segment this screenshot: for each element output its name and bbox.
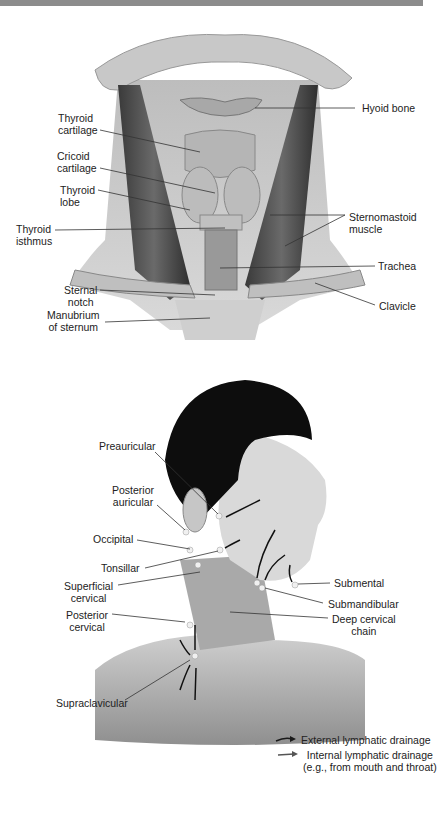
black-arrow-icon [275,734,297,744]
label-sternal-notch: Sternal notch [64,284,97,308]
label-tonsillar: Tonsillar [101,562,140,574]
label-posterior-auricular: Posterior auricular [112,484,154,508]
legend-internal: Internal lymphatic drainage (e.g., from … [277,749,437,773]
label-thyroid-lobe: Thyroid lobe [60,184,95,208]
legend-internal-label: Internal lymphatic drainage (e.g., from … [303,749,437,773]
gray-arrow-icon [277,749,299,759]
label-thyroid-cartilage: Thyroid cartilage [58,112,98,136]
label-clavicle: Clavicle [379,300,416,312]
legend-external-label: External lymphatic drainage [301,734,431,746]
label-deep-cervical-chain: Deep cervical chain [332,613,396,637]
label-supraclavicular: Supraclavicular [56,697,128,709]
label-sternomastoid-muscle: Sternomastoid muscle [349,211,417,235]
label-submandibular: Submandibular [328,598,399,610]
label-superficial-cervical: Superficial cervical [64,580,113,604]
label-submental: Submental [334,577,384,589]
legend-external: External lymphatic drainage [275,734,431,746]
label-preauricular: Preauricular [99,440,156,452]
label-thyroid-isthmus: Thyroid isthmus [16,223,52,247]
label-posterior-cervical: Posterior cervical [66,609,108,633]
label-cricoid-cartilage: Cricoid cartilage [57,150,97,174]
label-manubrium: Manubrium of sternum [47,309,100,333]
label-trachea: Trachea [378,260,416,272]
label-occipital: Occipital [93,533,133,545]
label-hyoid-bone: Hyoid bone [362,102,415,114]
